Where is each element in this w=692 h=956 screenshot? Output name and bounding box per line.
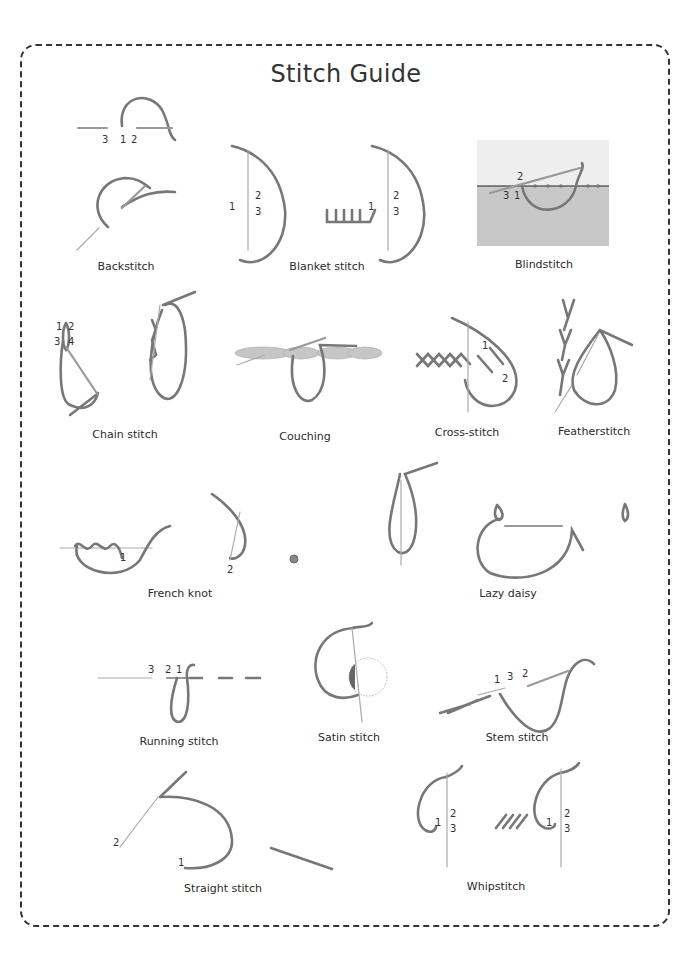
stitch-label-stem-stitch: Stem stitch bbox=[486, 731, 549, 744]
svg-text:1: 1 bbox=[435, 817, 441, 828]
svg-text:2: 2 bbox=[165, 664, 171, 675]
knot-dot bbox=[290, 555, 298, 563]
svg-text:2: 2 bbox=[450, 808, 456, 819]
couching-illustration bbox=[235, 338, 382, 401]
svg-text:1: 1 bbox=[514, 190, 520, 201]
svg-text:1: 1 bbox=[546, 817, 552, 828]
svg-text:1: 1 bbox=[120, 552, 126, 563]
blanket-stitch-illustration: 123 123 bbox=[229, 146, 424, 262]
stitch-label-featherstitch: Featherstitch bbox=[558, 425, 630, 438]
stitch-label-couching: Couching bbox=[279, 430, 330, 443]
cross-stitch-illustration: 12 bbox=[417, 318, 516, 412]
stitch-label-french-knot: French knot bbox=[148, 587, 212, 600]
svg-text:2: 2 bbox=[113, 837, 119, 848]
svg-text:4: 4 bbox=[68, 336, 74, 347]
svg-text:1: 1 bbox=[176, 664, 182, 675]
svg-text:3: 3 bbox=[503, 190, 509, 201]
svg-text:1: 1 bbox=[494, 674, 500, 685]
svg-text:2: 2 bbox=[131, 134, 137, 145]
svg-text:1: 1 bbox=[368, 201, 374, 212]
svg-text:3: 3 bbox=[102, 134, 108, 145]
svg-text:1: 1 bbox=[120, 134, 126, 145]
stitch-label-backstitch: Backstitch bbox=[97, 260, 154, 273]
svg-text:1: 1 bbox=[482, 340, 488, 351]
stitch-label-blanket-stitch: Blanket stitch bbox=[289, 260, 364, 273]
svg-text:2: 2 bbox=[393, 190, 399, 201]
svg-text:3: 3 bbox=[255, 206, 261, 217]
svg-text:3: 3 bbox=[450, 823, 456, 834]
stitch-label-blindstitch: Blindstitch bbox=[515, 258, 573, 271]
whipstitch-illustration: 123 123 bbox=[418, 763, 579, 867]
svg-text:2: 2 bbox=[502, 373, 508, 384]
svg-text:3: 3 bbox=[507, 671, 513, 682]
svg-text:2: 2 bbox=[564, 808, 570, 819]
backstitch-illustration: 312 bbox=[77, 98, 175, 250]
svg-text:2: 2 bbox=[68, 321, 74, 332]
svg-text:3: 3 bbox=[564, 823, 570, 834]
stem-stitch-illustration: 132 bbox=[440, 660, 594, 732]
featherstitch-illustration bbox=[555, 300, 632, 412]
stitch-label-cross-stitch: Cross-stitch bbox=[435, 426, 500, 439]
svg-text:2: 2 bbox=[227, 564, 233, 575]
svg-text:1: 1 bbox=[56, 321, 62, 332]
svg-text:2: 2 bbox=[522, 668, 528, 679]
stitch-label-lazy-daisy: Lazy daisy bbox=[479, 587, 537, 600]
chain-stitch-illustration: 1234 bbox=[54, 292, 195, 415]
stitch-illustrations: 312 123 123 231 1234 bbox=[0, 0, 692, 956]
svg-text:3: 3 bbox=[393, 206, 399, 217]
blindstitch-illustration: 231 bbox=[477, 140, 609, 246]
straight-stitch-illustration: 21 bbox=[113, 772, 332, 869]
svg-text:3: 3 bbox=[54, 336, 60, 347]
stitch-label-satin-stitch: Satin stitch bbox=[318, 731, 380, 744]
stitch-label-whipstitch: Whipstitch bbox=[467, 880, 525, 893]
svg-text:3: 3 bbox=[148, 664, 154, 675]
svg-text:1: 1 bbox=[229, 201, 235, 212]
svg-text:2: 2 bbox=[255, 190, 261, 201]
stitch-label-running-stitch: Running stitch bbox=[139, 735, 218, 748]
running-stitch-illustration: 321 bbox=[98, 664, 260, 722]
french-knot-illustration: 1 2 bbox=[60, 494, 298, 575]
satin-stitch-illustration bbox=[315, 623, 387, 722]
svg-text:2: 2 bbox=[517, 171, 523, 182]
svg-text:1: 1 bbox=[178, 857, 184, 868]
lazy-daisy-illustration bbox=[389, 463, 628, 578]
stitch-label-straight-stitch: Straight stitch bbox=[184, 882, 262, 895]
stitch-label-chain-stitch: Chain stitch bbox=[92, 428, 157, 441]
